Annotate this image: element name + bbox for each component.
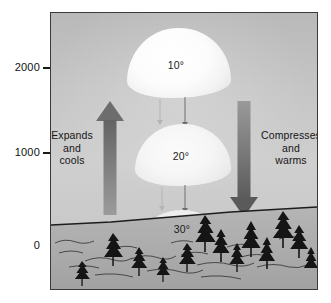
middle-parcel-temperature: 20° [173, 150, 189, 162]
ground-landscape [51, 203, 317, 289]
sinking-air-arrow-icon [229, 101, 259, 217]
descent-arrow-faint-upper [156, 99, 164, 125]
compresses-and-warms-label: Compresses and warms [259, 129, 318, 167]
expands-and-cools-label: Expands and cools [50, 129, 99, 167]
elevation-axis: 2000 1000 0 [0, 0, 52, 303]
axis-label-1000: 1000 [15, 146, 40, 158]
arrow-shaft [160, 99, 161, 120]
axis-label-2000: 2000 [15, 61, 40, 73]
upper-parcel: 10° [127, 28, 231, 98]
arrow-head [96, 101, 124, 121]
arrow-shaft [104, 120, 117, 215]
middle-parcel: 20° [135, 124, 231, 186]
arrow-shaft [238, 101, 251, 197]
diagram-frame: 10° 20° 30° Expands and cools Compresse [50, 12, 318, 290]
upper-parcel-temperature: 10° [168, 59, 184, 71]
axis-label-0: 0 [34, 239, 40, 251]
descent-arrow-dark-upper [181, 97, 189, 127]
rising-air-arrow-icon [95, 101, 125, 215]
lower-parcel-temperature: 30° [174, 223, 190, 235]
arrow-shaft [185, 97, 186, 122]
